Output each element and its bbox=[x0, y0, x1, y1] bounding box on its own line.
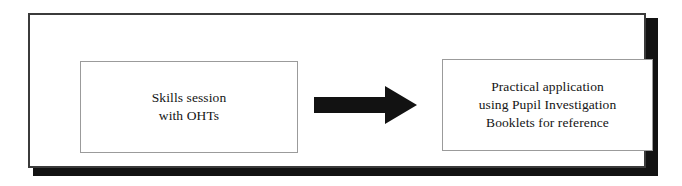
diagram-canvas: Skills session with OHTs Practical appli… bbox=[0, 0, 682, 186]
node-skills-session: Skills session with OHTs bbox=[80, 61, 298, 153]
diagram-outer-frame: Skills session with OHTs Practical appli… bbox=[28, 13, 646, 168]
node-practical-application-label: Practical application using Pupil Invest… bbox=[473, 78, 623, 131]
node-practical-application: Practical application using Pupil Invest… bbox=[442, 59, 653, 151]
node-skills-session-label: Skills session with OHTs bbox=[146, 89, 233, 125]
frame-shadow-bottom bbox=[33, 167, 658, 176]
arrow-right-icon bbox=[314, 85, 418, 125]
